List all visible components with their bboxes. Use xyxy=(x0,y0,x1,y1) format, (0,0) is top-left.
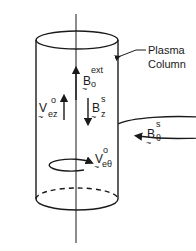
svg-text:o: o xyxy=(51,95,56,105)
b-theta-label: B s θ ~ xyxy=(146,119,161,148)
svg-text:eθ: eθ xyxy=(102,159,112,169)
plasma-column-leader xyxy=(118,50,146,57)
plasma-label: Plasma xyxy=(148,44,186,56)
svg-text:~: ~ xyxy=(82,84,87,94)
svg-text:s: s xyxy=(101,94,106,104)
svg-text:s: s xyxy=(156,119,161,129)
plasma-column-cylinder xyxy=(36,31,118,210)
svg-text:ext: ext xyxy=(91,65,104,75)
svg-text:o: o xyxy=(91,79,96,89)
cylinder-bottom-front xyxy=(36,199,118,210)
svg-text:ez: ez xyxy=(48,109,58,119)
svg-text:~: ~ xyxy=(91,112,96,122)
b-ext-label: B ext o ~ xyxy=(82,65,104,94)
cylinder-bottom-back-dashed xyxy=(36,188,118,199)
svg-text:~: ~ xyxy=(38,112,43,122)
svg-text:z: z xyxy=(101,109,106,119)
v-etheta-label: V o eθ ~ xyxy=(94,145,112,172)
svg-text:θ: θ xyxy=(156,133,161,143)
column-label: Column xyxy=(148,58,186,70)
v-ez-label: V o ez ~ xyxy=(38,95,58,122)
v-etheta-loop xyxy=(49,159,90,171)
b-z-label: B s z ~ xyxy=(91,94,106,122)
svg-text:o: o xyxy=(103,145,108,155)
cylinder-top-ellipse xyxy=(36,31,118,49)
svg-text:~: ~ xyxy=(94,162,99,172)
plasma-column-diagram: Plasma Column B ext o ~ B s z ~ V o ez ~… xyxy=(0,0,196,251)
svg-text:~: ~ xyxy=(146,138,151,148)
